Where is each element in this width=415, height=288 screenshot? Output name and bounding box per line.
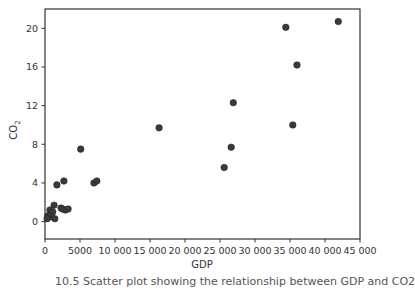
data-point (228, 144, 235, 151)
x-tick-label: 15 000 (133, 245, 166, 256)
plot-frame (45, 9, 360, 239)
x-tick-label: 30 000 (238, 245, 271, 256)
data-point (230, 99, 237, 106)
data-point (221, 164, 228, 171)
y-axis-label-subscript: 2 (14, 120, 22, 124)
data-point (294, 62, 301, 69)
figure-caption: 10.5 Scatter plot showing the relationsh… (55, 275, 415, 288)
x-axis-ticks: 0500010 00015 00020 00025 00030 00035 00… (42, 239, 377, 256)
y-tick-label: 20 (26, 23, 38, 34)
data-point (290, 122, 297, 129)
x-tick-label: 45 000 (343, 245, 376, 256)
x-tick-label: 40 000 (308, 245, 341, 256)
plot-area-border (45, 9, 360, 239)
data-point (94, 178, 101, 185)
data-points (44, 18, 342, 222)
x-axis-label: GDP (191, 259, 212, 270)
x-tick-label: 0 (42, 245, 48, 256)
data-point (44, 215, 51, 222)
y-axis-ticks: 048121620 (26, 23, 45, 227)
x-tick-label: 5000 (68, 245, 92, 256)
y-tick-label: 16 (26, 61, 38, 72)
y-axis-label-main: CO (8, 125, 19, 140)
data-point (283, 24, 290, 31)
y-tick-label: 4 (32, 177, 38, 188)
y-tick-label: 8 (32, 139, 38, 150)
y-axis-label: CO2 (8, 120, 22, 139)
data-point (52, 215, 59, 222)
data-point (61, 178, 68, 185)
data-point (335, 18, 342, 25)
x-tick-label: 10 000 (98, 245, 131, 256)
y-tick-label: 0 (32, 216, 38, 227)
data-point (65, 206, 72, 213)
x-tick-label: 25 000 (203, 245, 236, 256)
x-tick-label: 35 000 (273, 245, 306, 256)
data-point (54, 182, 61, 189)
data-point (77, 146, 84, 153)
x-tick-label: 20 000 (168, 245, 201, 256)
data-point (156, 125, 163, 132)
y-tick-label: 12 (26, 100, 38, 111)
